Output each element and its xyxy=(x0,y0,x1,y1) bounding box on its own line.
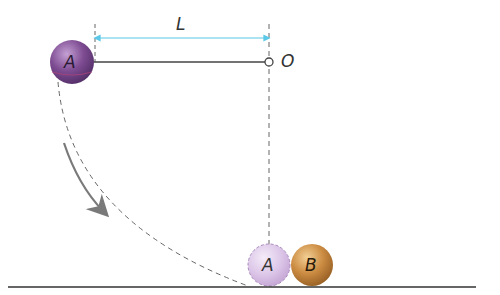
trajectory-arc xyxy=(58,82,248,286)
pivot-label: O xyxy=(281,51,294,71)
motion-arrow xyxy=(64,143,103,211)
ball-a-initial: A xyxy=(50,40,94,84)
ball-b: B xyxy=(291,244,333,286)
ball-a-final-position: A xyxy=(248,244,290,286)
pivot-point xyxy=(265,58,273,66)
length-label: L xyxy=(176,14,185,34)
ball-b-label: B xyxy=(305,255,317,275)
pendulum-collision-diagram: L O A A B xyxy=(0,0,500,295)
ball-a-ghost-label: A xyxy=(261,255,274,275)
ball-a-label: A xyxy=(63,52,76,72)
